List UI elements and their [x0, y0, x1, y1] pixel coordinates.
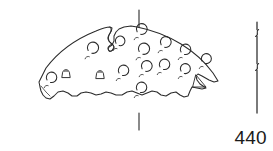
boss-2	[62, 70, 70, 78]
scale-bar-break-mark-2	[256, 64, 259, 71]
scale-bar	[256, 22, 259, 113]
sherd-outline	[39, 26, 218, 99]
illustration-plate: 440	[0, 0, 273, 151]
sherd-drawing-canvas	[0, 0, 273, 151]
sherd-body	[39, 26, 218, 99]
scale-bar-break-mark-1	[256, 30, 259, 37]
boss-4	[96, 71, 104, 79]
catalog-number: 440	[234, 128, 267, 147]
